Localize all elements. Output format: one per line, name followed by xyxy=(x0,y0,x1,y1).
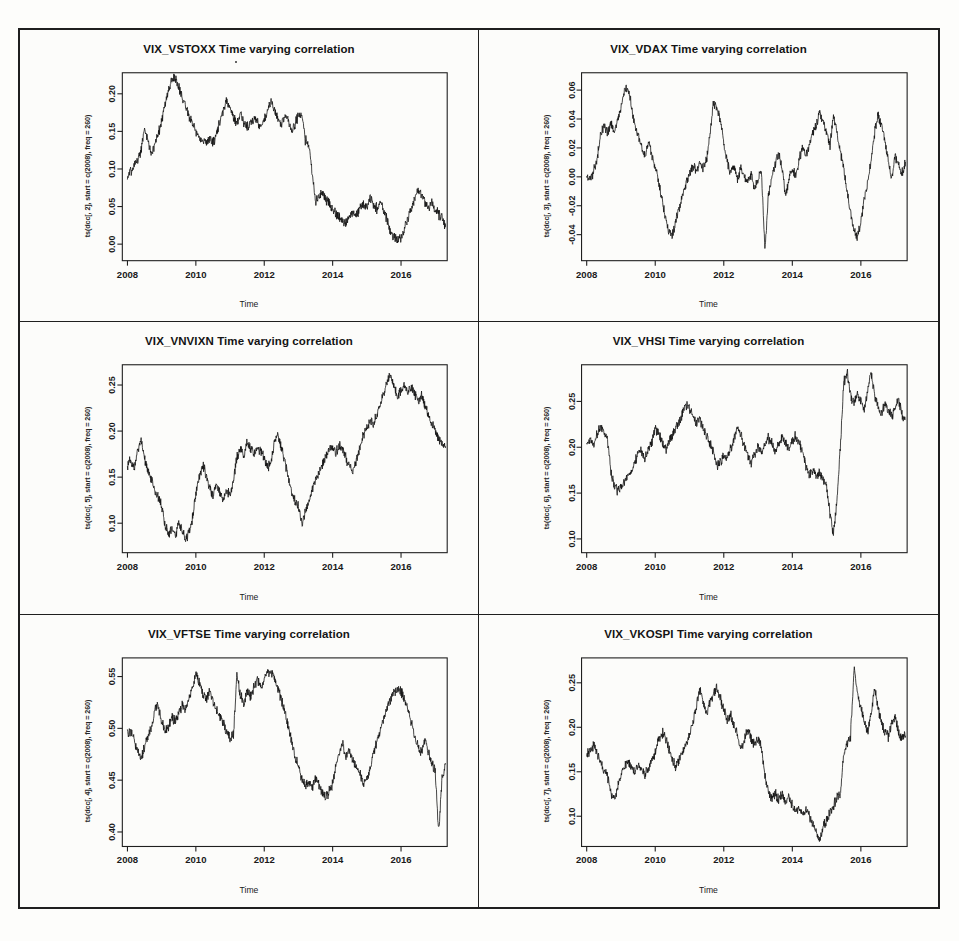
x-tick-label: 2016 xyxy=(850,561,871,572)
x-tick-label: 2014 xyxy=(322,854,344,865)
x-tick-label: 2016 xyxy=(390,561,411,572)
x-tick-label: 2012 xyxy=(713,269,734,280)
plot-area: 20082010201220142016-0.04-0.020.000.020.… xyxy=(479,30,938,321)
x-tick-label: 2016 xyxy=(390,269,411,280)
x-tick-label: 2012 xyxy=(254,854,275,865)
x-tick-label: 2008 xyxy=(117,561,138,572)
x-tick-label: 2008 xyxy=(576,854,598,865)
series-line xyxy=(127,373,445,542)
y-tick-label: 0.25 xyxy=(567,393,577,410)
y-tick-label: -0.02 xyxy=(567,196,577,216)
y-tick-label: 0.15 xyxy=(567,485,577,502)
plot-box xyxy=(122,73,447,261)
y-tick-label: 0.15 xyxy=(567,763,577,780)
y-tick-label: 0.15 xyxy=(107,469,117,486)
x-tick-label: 2016 xyxy=(850,269,871,280)
y-tick-label: 0.55 xyxy=(107,667,117,684)
y-tick-label: 0.00 xyxy=(107,235,117,252)
x-tick-label: 2014 xyxy=(782,854,804,865)
chart-panel: VIX_VNVIXN Time varying correlationts(dc… xyxy=(20,322,479,614)
y-tick-label: 0.10 xyxy=(567,807,577,824)
x-tick-label: 2016 xyxy=(850,854,871,865)
y-tick-label: 0.45 xyxy=(107,771,117,788)
series-line xyxy=(127,669,445,826)
y-tick-label: 0.06 xyxy=(567,81,577,98)
plot-area: 200820102012201420160.100.150.200.25 xyxy=(479,615,938,907)
x-tick-label: 2014 xyxy=(782,561,804,572)
plot-box xyxy=(582,365,908,553)
y-tick-label: 0.02 xyxy=(567,139,577,156)
x-tick-label: 2010 xyxy=(645,561,666,572)
x-tick-label: 2010 xyxy=(185,854,206,865)
y-tick-label: 0.25 xyxy=(107,377,117,394)
series-line xyxy=(587,369,906,536)
y-tick-label: 0.10 xyxy=(107,160,117,177)
scan-speck xyxy=(235,61,237,63)
x-tick-label: 2010 xyxy=(645,269,666,280)
y-tick-label: 0.10 xyxy=(107,515,117,532)
x-tick-label: 2014 xyxy=(782,269,804,280)
chart-panel: VIX_VDAX Time varying correlationts(dcc[… xyxy=(479,30,938,322)
plot-area: 200820102012201420160.100.150.200.25 xyxy=(20,322,478,613)
y-tick-label: 0.20 xyxy=(567,718,577,735)
x-tick-label: 2012 xyxy=(254,561,275,572)
y-tick-label: -0.04 xyxy=(567,224,577,244)
plot-area: 200820102012201420160.000.050.100.150.20 xyxy=(20,30,478,321)
figure-grid: VIX_VSTOXX Time varying correlationts(dc… xyxy=(18,28,940,909)
y-tick-label: 0.10 xyxy=(567,531,577,548)
y-tick-label: 0.04 xyxy=(567,110,577,127)
y-tick-label: 0.15 xyxy=(107,123,117,140)
x-tick-label: 2014 xyxy=(322,561,344,572)
x-tick-label: 2010 xyxy=(645,854,666,865)
y-tick-label: 0.20 xyxy=(107,423,117,440)
x-tick-label: 2008 xyxy=(576,269,598,280)
chart-panel: VIX_VSTOXX Time varying correlationts(dc… xyxy=(20,30,479,322)
series-line xyxy=(587,666,906,841)
x-tick-label: 2010 xyxy=(185,561,206,572)
y-tick-label: 0.00 xyxy=(567,168,577,185)
x-tick-label: 2008 xyxy=(117,269,138,280)
y-tick-label: 0.20 xyxy=(567,439,577,456)
x-tick-label: 2010 xyxy=(185,269,206,280)
plot-area: 200820102012201420160.400.450.500.55 xyxy=(20,615,478,907)
y-tick-label: 0.25 xyxy=(567,674,577,691)
series-line xyxy=(127,74,445,243)
series-line xyxy=(587,85,906,249)
x-tick-label: 2008 xyxy=(117,854,139,865)
y-tick-label: 0.50 xyxy=(107,719,117,736)
y-tick-label: 0.05 xyxy=(107,198,117,215)
chart-panel: VIX_VHSI Time varying correlationts(dcc[… xyxy=(479,322,938,614)
x-tick-label: 2012 xyxy=(713,854,734,865)
x-tick-label: 2016 xyxy=(390,854,411,865)
chart-panel: VIX_VFTSE Time varying correlationts(dcc… xyxy=(20,615,479,907)
y-tick-label: 0.40 xyxy=(107,823,117,840)
x-tick-label: 2008 xyxy=(576,561,598,572)
x-tick-label: 2014 xyxy=(322,269,344,280)
x-tick-label: 2012 xyxy=(713,561,734,572)
x-tick-label: 2012 xyxy=(254,269,275,280)
plot-area: 200820102012201420160.100.150.200.25 xyxy=(479,322,938,613)
chart-panel: VIX_VKOSPI Time varying correlationts(dc… xyxy=(479,615,938,907)
y-tick-label: 0.20 xyxy=(107,85,117,102)
plot-box xyxy=(582,658,908,847)
